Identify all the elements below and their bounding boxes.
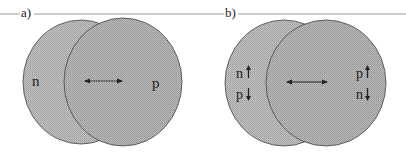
right-label-n: n bbox=[356, 87, 363, 102]
right-nucleus-circle bbox=[266, 20, 386, 146]
panel-b-label: b) bbox=[225, 5, 236, 20]
right-label-p: p bbox=[356, 66, 363, 81]
panel-b: b) n p p n bbox=[224, 5, 386, 146]
right-nucleus-circle bbox=[64, 18, 182, 146]
left-label-n: n bbox=[32, 73, 40, 89]
left-label-p: p bbox=[236, 87, 243, 102]
left-label-n: n bbox=[236, 66, 243, 81]
nucleon-overlap-diagram: a) n p b) n p p n bbox=[0, 0, 406, 154]
panel-a-label: a) bbox=[21, 5, 31, 20]
right-label-p: p bbox=[152, 75, 160, 91]
panel-a: a) n p bbox=[20, 5, 182, 146]
